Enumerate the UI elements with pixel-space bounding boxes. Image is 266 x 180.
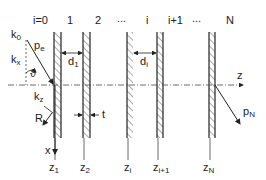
x-axis-label: x [45, 145, 51, 156]
pN-label: pN [243, 106, 255, 120]
theta-label: ϑ [30, 68, 36, 79]
position-z2: z2 [80, 162, 90, 176]
layer-index-0: i=0 [33, 15, 48, 26]
kx-label: kx [11, 54, 21, 68]
position-zi: zi [124, 162, 131, 176]
di-label: di [140, 56, 148, 70]
position-zi-plus-1: zi+1 [153, 162, 169, 176]
kz-leader [44, 106, 53, 113]
layer-index-2: 2 [95, 15, 101, 26]
layer-index-i-plus-1: i+1 [168, 15, 183, 26]
thickness-label: t [102, 109, 105, 120]
z-axis-label: z [237, 70, 243, 81]
position-zN: zN [203, 162, 214, 176]
layer-index-i: i [146, 15, 148, 26]
position-ticks [55, 138, 210, 160]
kz-label: kz [34, 91, 44, 105]
reflected-arrow [43, 113, 52, 125]
layer-index-1: 1 [67, 15, 73, 26]
transmitted-wave-arrow [215, 85, 240, 124]
reflected-label: R [35, 113, 43, 124]
pe-label: pe [34, 40, 45, 54]
layer-index-N: N [226, 15, 234, 26]
position-z1: z1 [49, 162, 59, 176]
layer-index-ellipsis-2: ... [192, 13, 201, 24]
layer-index-ellipsis-1: ... [117, 13, 126, 24]
d1-label: d1 [68, 56, 79, 70]
k0-label: k0 [11, 29, 21, 43]
